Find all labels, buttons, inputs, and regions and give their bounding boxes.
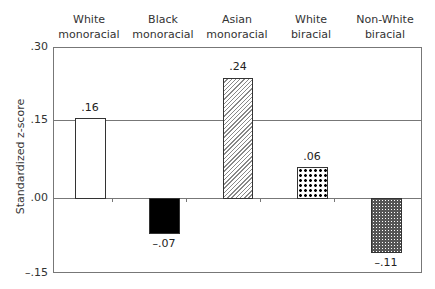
category-label-non-white-biracial: Non-White biracial [345, 12, 425, 42]
label-line: White [49, 12, 129, 27]
bar-white-biracial [297, 167, 328, 199]
category-label-asian-monoracial: Asian monoracial [197, 12, 277, 42]
label-line: biracial [345, 27, 425, 42]
plot-area: .16 –.07 .24 .06 –.11 [53, 47, 422, 273]
label-line: White [271, 12, 351, 27]
category-label-black-monoracial: Black monoracial [123, 12, 203, 42]
value-label-black-monoracial: –.07 [139, 237, 189, 250]
label-line: monoracial [197, 27, 277, 42]
category-label-white-monoracial: White monoracial [49, 12, 129, 42]
label-line: monoracial [123, 27, 203, 42]
value-label-non-white-biracial: –.11 [361, 256, 411, 269]
x-tick [186, 199, 187, 202]
label-line: Asian [197, 12, 277, 27]
category-label-white-biracial: White biracial [271, 12, 351, 42]
label-line: Non-White [345, 12, 425, 27]
x-tick [334, 199, 335, 202]
y-tick-000: .00 [8, 191, 48, 204]
bar-black-monoracial [149, 198, 180, 234]
bar-asian-monoracial [223, 78, 253, 199]
label-line: Black [123, 12, 203, 27]
bar-non-white-biracial [371, 198, 402, 253]
label-line: biracial [271, 27, 351, 42]
label-line: monoracial [49, 27, 129, 42]
y-tick-015: .15 [8, 113, 48, 126]
y-tick-030: .30 [8, 40, 48, 53]
value-label-white-biracial: .06 [287, 150, 337, 163]
y-tick-neg015: –.15 [8, 266, 48, 279]
value-label-asian-monoracial: .24 [213, 60, 263, 73]
x-tick [112, 199, 113, 202]
x-tick [260, 199, 261, 202]
bar-white-monoracial [75, 118, 106, 199]
value-label-white-monoracial: .16 [65, 101, 115, 114]
